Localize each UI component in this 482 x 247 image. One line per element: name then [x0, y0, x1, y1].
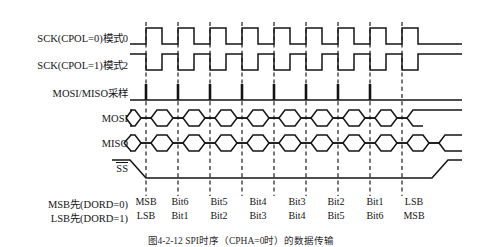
bit-cell-lsb-1: Bit1: [171, 210, 188, 221]
figure-caption: 图4-2-12 SPI时序（CPHA=0时）的数据传输: [0, 233, 482, 247]
bit-cell-msb-4: Bit3: [288, 196, 305, 207]
waveform-mosi: [126, 110, 462, 126]
waveform-sck-cpol1: [130, 54, 462, 70]
bit-cell-msb-7: LSB: [405, 196, 423, 207]
bit-order-label-lsb-first: LSB先(DORD=1): [8, 210, 128, 225]
waveform-miso: [124, 135, 462, 151]
waveform-sck-cpol0: [130, 28, 462, 44]
bit-cell-lsb-6: Bit6: [366, 210, 383, 221]
bit-cell-msb-0: MSB: [135, 196, 156, 207]
bit-cell-msb-3: Bit4: [249, 196, 266, 207]
bit-cell-lsb-5: Bit5: [327, 210, 344, 221]
dashed-guide-lines: [146, 22, 402, 196]
bit-cell-lsb-4: Bit4: [288, 210, 305, 221]
bit-cell-lsb-2: Bit2: [210, 210, 227, 221]
bit-cell-lsb-0: LSB: [137, 210, 155, 221]
bit-cell-msb-5: Bit2: [327, 196, 344, 207]
bit-cell-msb-1: Bit6: [171, 196, 188, 207]
bit-order-label-msb-first: MSB先(DORD=0): [8, 196, 128, 211]
bit-cell-msb-6: Bit1: [366, 196, 383, 207]
bit-cell-lsb-3: Bit3: [249, 210, 266, 221]
bit-cell-lsb-7: MSB: [403, 210, 424, 221]
waveform-sample-strobes: [130, 84, 462, 100]
sample-strobe-marks: [146, 84, 370, 100]
bit-cell-msb-2: Bit5: [210, 196, 227, 207]
waveform-ss: [112, 160, 462, 178]
